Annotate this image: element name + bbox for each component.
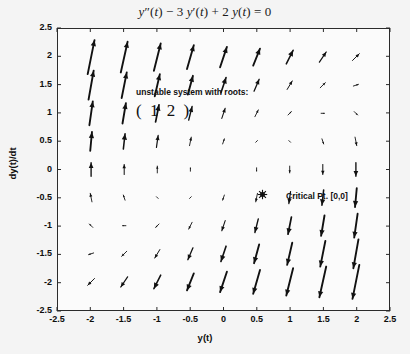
field-arrow [223,139,225,144]
plot-title: y″(t) − 3 y′(t) + 2 y(t) = 0 [0,4,410,20]
field-arrow [122,251,127,256]
field-arrow [89,253,94,255]
field-arrow [353,84,358,86]
field-arrow [154,43,162,70]
field-arrow [287,81,292,90]
y-tick-label: 1 [18,107,52,117]
field-arrow [355,137,358,146]
field-arrow [156,166,158,173]
field-arrow [123,225,126,226]
field-arrow [254,79,259,91]
field-arrow [320,83,325,88]
field-arrow [255,110,258,117]
annotation-unstable-roots: unstable system with roots: [136,87,248,97]
field-arrow [187,45,195,69]
field-arrow [122,134,127,149]
field-arrow [187,273,194,290]
field-arrow [89,163,94,177]
field-arrow [286,50,293,64]
field-arrow [321,113,324,114]
field-arrow [287,217,292,234]
field-arrow [156,197,158,199]
field-arrow [352,239,359,268]
field-arrow [122,72,129,98]
field-arrow [89,101,94,125]
y-tick-label: -2 [18,277,52,287]
field-arrow [121,277,128,287]
plot-area: unstable system with roots: ( 1 2 ) Crit… [57,28,390,311]
field-arrow [322,139,324,144]
x-tick-label: 2.5 [370,314,410,324]
field-arrow [190,168,191,171]
field-arrow [219,272,226,292]
field-arrow [155,135,159,147]
field-arrow [221,221,225,231]
field-arrow [254,219,259,233]
field-arrow [122,103,127,123]
field-arrow [156,224,159,227]
field-arrow [123,195,125,200]
field-arrow [88,278,95,285]
y-tick-label: 2.5 [18,22,52,32]
field-arrow [285,268,293,295]
y-tick-label: -0.5 [18,192,52,202]
field-arrow [354,163,359,177]
field-arrow [89,224,92,227]
field-arrow [121,42,129,73]
field-arrow [352,54,359,61]
field-arrow [289,166,291,173]
y-axis-label: dy(t)/dt [7,134,18,194]
field-arrow [89,193,92,202]
field-arrow [288,112,291,115]
figure-canvas: y″(t) − 3 y′(t) + 2 y(t) = 0 unstable sy… [0,0,410,354]
y-tick-label: -1.5 [18,248,52,258]
field-arrow [253,244,259,263]
field-arrow [252,270,260,294]
critical-point-label: Critical Pt. [0,0] [286,191,348,201]
field-arrow [89,132,94,151]
field-arrow [319,215,324,235]
field-arrow [321,164,324,174]
y-tick-label: -2.5 [18,305,52,315]
field-arrow [88,40,96,74]
field-arrow [318,267,326,298]
annotation-roots-matrix: ( 1 2 ) [136,101,191,121]
field-arrow [256,168,257,171]
field-arrow [220,47,227,67]
y-tick-label: 1.5 [18,79,52,89]
field-arrow [89,71,96,100]
field-arrow [319,241,326,267]
field-arrow [154,275,161,289]
field-arrow [253,49,260,66]
field-arrow [354,112,357,115]
field-arrow [155,250,160,259]
field-arrow [352,214,357,238]
field-arrow [222,195,224,200]
y-tick-label: 0 [18,164,52,174]
field-arrow [220,246,226,261]
field-arrow [222,108,226,118]
field-arrow [353,188,358,207]
field-arrow [256,141,258,143]
y-tick-label: 2 [18,50,52,60]
field-arrow [286,243,292,265]
field-arrow [351,265,359,299]
field-arrow [190,197,192,199]
critical-point-marker [257,189,268,200]
field-arrow [289,141,291,143]
y-tick-label: -1 [18,220,52,230]
x-axis-label: y(t) [0,332,410,343]
y-tick-label: 0.5 [18,135,52,145]
field-arrow [189,137,192,146]
quiver-vector-field [58,29,389,310]
field-arrow [319,52,326,62]
field-arrow [189,222,192,229]
field-arrow [188,248,193,260]
field-arrow [122,164,125,174]
